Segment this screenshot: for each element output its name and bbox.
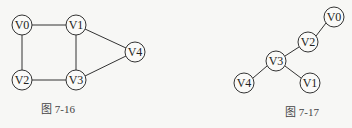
node-label: V1 xyxy=(303,76,318,90)
node-v3: V3 xyxy=(66,70,86,90)
node-label: V4 xyxy=(237,76,252,90)
edge-v3-v4 xyxy=(253,66,267,78)
node-label: V1 xyxy=(69,18,84,32)
node-label: V0 xyxy=(15,18,30,32)
node-label: V2 xyxy=(15,73,30,87)
figure-7-16: V0 V1 V2 V3 V4 图 7-16 xyxy=(12,15,145,115)
node-v1: V1 xyxy=(66,15,86,35)
node-v2: V2 xyxy=(12,70,32,90)
edge-v3-v1 xyxy=(285,66,301,78)
node-label: V3 xyxy=(69,73,84,87)
edge-v3-v4 xyxy=(85,56,126,76)
edge-v2-v3 xyxy=(285,47,299,56)
node-label: V2 xyxy=(301,35,316,49)
node-label: V0 xyxy=(327,10,342,24)
node-v0: V0 xyxy=(12,15,32,35)
node-label: V4 xyxy=(128,45,143,59)
node-v1: V1 xyxy=(300,73,320,93)
edge-v1-v4 xyxy=(85,29,126,48)
diagram-canvas: V0 V1 V2 V3 V4 图 7-16 V0 xyxy=(0,0,352,128)
edge-v0-v2 xyxy=(316,23,326,36)
figure-caption: 图 7-17 xyxy=(285,106,319,118)
node-v4: V4 xyxy=(234,73,254,93)
figure-7-17: V0 V2 V3 V4 V1 图 7-17 xyxy=(234,7,344,118)
node-v0: V0 xyxy=(324,7,344,27)
node-label: V3 xyxy=(269,54,284,68)
node-v4: V4 xyxy=(125,42,145,62)
figure-caption: 图 7-16 xyxy=(41,103,75,115)
node-v2: V2 xyxy=(298,32,318,52)
edges-7-17 xyxy=(253,23,326,78)
node-v3: V3 xyxy=(266,51,286,71)
